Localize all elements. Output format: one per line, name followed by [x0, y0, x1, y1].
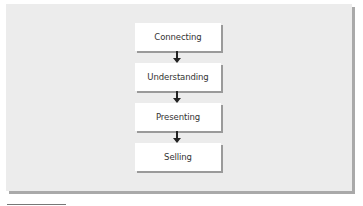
- arrow-down-icon: [176, 131, 178, 139]
- step-label: Presenting: [156, 112, 200, 122]
- step-selling: Selling: [135, 143, 221, 171]
- step-label: Selling: [164, 152, 192, 162]
- step-presenting: Presenting: [135, 103, 221, 131]
- step-understanding: Understanding: [135, 63, 221, 91]
- step-label: Connecting: [154, 32, 201, 42]
- footnote-rule: [7, 204, 66, 205]
- arrow-down-icon: [176, 91, 178, 99]
- step-connecting: Connecting: [135, 23, 221, 51]
- arrow-down-icon: [176, 51, 178, 59]
- step-label: Understanding: [147, 72, 208, 82]
- diagram-panel: Connecting Understanding Presenting Sell…: [6, 4, 352, 191]
